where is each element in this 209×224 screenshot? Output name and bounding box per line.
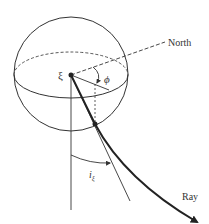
north-direction-line: [71, 42, 165, 75]
takeoff-angle-arc: [71, 155, 110, 163]
ray-piercing-point: [93, 122, 98, 127]
north-label: North: [168, 37, 191, 48]
azimuth-arc: [93, 67, 99, 83]
ray-label: Ray: [182, 191, 198, 202]
takeoff-label: iξ: [89, 169, 95, 182]
equator-back: [14, 52, 128, 75]
source-label: ξ: [58, 69, 63, 82]
focal-sphere-diagram: ξ ϕ North iξ Ray: [0, 0, 209, 224]
source-point: [69, 73, 74, 78]
azimuth-label: ϕ: [104, 73, 110, 85]
takeoff-subscript: ξ: [92, 174, 95, 182]
